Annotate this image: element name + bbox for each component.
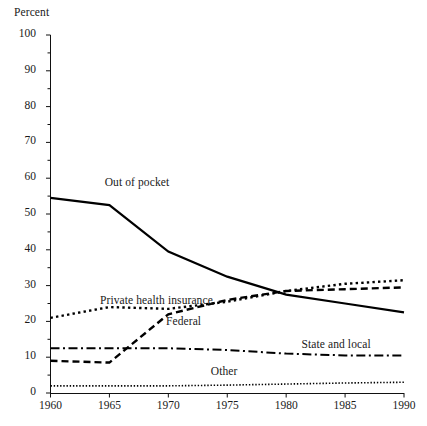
- series-label-federal: Federal: [166, 315, 201, 327]
- series-label-out-of-pocket: Out of pocket: [105, 176, 170, 188]
- y-tick-label: 60: [8, 170, 36, 182]
- y-tick-label: 40: [8, 242, 36, 254]
- y-tick-label: 100: [8, 27, 36, 39]
- x-tick-label: 1975: [205, 399, 249, 411]
- x-tick-label: 1960: [29, 399, 73, 411]
- y-tick-label: 20: [8, 313, 36, 325]
- chart-plot-area: [0, 0, 427, 426]
- x-tick-label: 1970: [146, 399, 190, 411]
- series-line-other: [51, 382, 405, 386]
- y-axis-ticks: [46, 35, 51, 393]
- chart-container: Percent 0102030405060708090100 196019651…: [0, 0, 427, 426]
- y-tick-label: 70: [8, 134, 36, 146]
- y-tick-label: 80: [8, 99, 36, 111]
- x-tick-label: 1965: [87, 399, 131, 411]
- y-tick-label: 30: [8, 278, 36, 290]
- x-tick-label: 1990: [382, 399, 426, 411]
- series-label-state-and-local: State and local: [301, 338, 370, 350]
- series-label-other: Other: [211, 365, 238, 377]
- y-tick-label: 50: [8, 206, 36, 218]
- x-tick-label: 1980: [264, 399, 308, 411]
- y-tick-label: 90: [8, 63, 36, 75]
- y-tick-label: 10: [8, 349, 36, 361]
- y-tick-label: 0: [8, 385, 36, 397]
- data-series-layer: [51, 198, 405, 386]
- series-label-private-health-insurance: Private health insurance: [100, 294, 213, 306]
- x-tick-label: 1985: [323, 399, 367, 411]
